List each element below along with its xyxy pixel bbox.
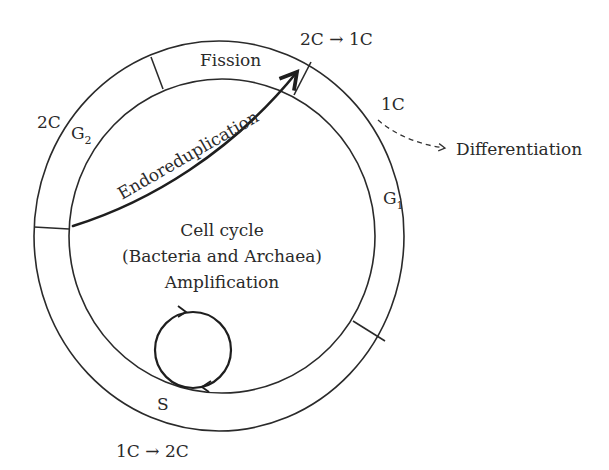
- g1-sub: 1: [397, 199, 404, 212]
- differentiation-arrow: [378, 120, 445, 148]
- g2-sub: 2: [85, 134, 92, 147]
- divider-fission-g1: [294, 62, 311, 95]
- differentiation-label: Differentiation: [456, 139, 582, 159]
- divider-g2-fission: [151, 57, 163, 89]
- ploidy-fission-transition: 2C → 1C: [300, 29, 373, 49]
- amplification-loop: [155, 312, 231, 388]
- fission-label: Fission: [200, 50, 261, 70]
- loop-arrowhead-top: [178, 306, 186, 317]
- ploidy-g2: 2C: [37, 112, 61, 132]
- s-label: S: [157, 394, 169, 414]
- divider-s-g2: [34, 227, 69, 229]
- cell-cycle-diagram: Endoreduplication Differentiation Fissio…: [0, 0, 609, 470]
- ploidy-s-transition: 1C → 2C: [116, 441, 189, 461]
- ploidy-g1: 1C: [381, 94, 405, 114]
- g1-main: G: [383, 188, 397, 208]
- g2-main: G: [71, 123, 85, 143]
- endoreduplication-label: Endoreduplication: [114, 106, 262, 203]
- center-label-cell-cycle: Cell cycle: [180, 220, 264, 240]
- center-label-amplification: Amplification: [164, 272, 280, 292]
- g1-label: G1: [383, 188, 404, 212]
- g2-label: G2: [71, 123, 92, 147]
- center-label-organisms: (Bacteria and Archaea): [122, 246, 322, 266]
